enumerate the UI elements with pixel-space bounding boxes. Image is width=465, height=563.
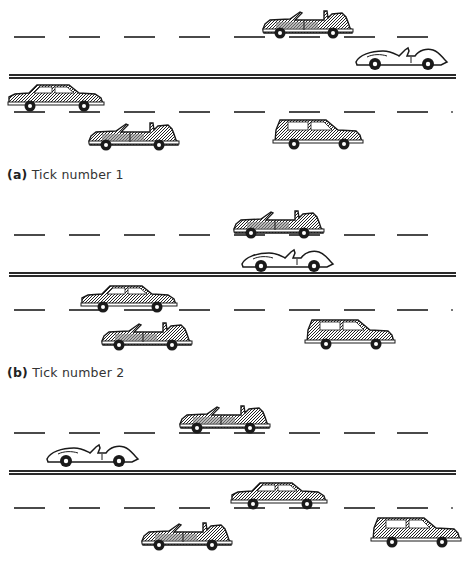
lane-dash [397,234,428,236]
lane-dash [124,234,155,236]
convertible-car-icon [141,520,233,552]
lane-dash [124,36,155,38]
lane-dash [397,507,428,509]
lane-dash [397,111,428,113]
lane-dash [397,432,428,434]
suv-car-icon [272,118,364,151]
roadster-car-icon [44,439,140,469]
lane-dash [14,234,45,236]
lane-dash [179,234,210,236]
roadster-car-icon [239,244,335,274]
sedan-car-icon [230,480,328,512]
convertible-car-icon [101,320,193,352]
lane-dash [344,432,375,434]
suv-car-icon [304,318,396,351]
lane-dash [14,309,45,311]
lane-dash [344,111,375,113]
convertible-car-icon [179,403,271,435]
panel-caption: (b) Tick number 2 [7,365,124,380]
lane-dash [14,507,45,509]
panel-label: (b) [7,365,28,380]
speck [451,111,453,113]
lane-dash [234,111,265,113]
suv-car-icon [370,516,462,549]
panel-1: (a) Tick number 1 [0,0,465,196]
lane-dash [124,111,155,113]
convertible-car-icon [233,208,325,240]
median-divider [9,272,456,277]
lane-dash [234,36,265,38]
lane-dash [397,309,428,311]
median-divider [9,74,456,79]
panel-label: (a) [7,167,27,182]
lane-dash [14,432,45,434]
lane-dash [14,36,45,38]
lane-dash [234,309,265,311]
lane-dash [69,507,100,509]
lane-dash [397,36,428,38]
convertible-car-icon [88,120,180,152]
lane-dash [179,309,210,311]
lane-dash [69,234,100,236]
convertible-car-icon [262,8,354,40]
lane-dash [289,111,320,113]
lane-dash [344,234,375,236]
panel-3 [0,396,465,563]
caption-text: Tick number 1 [32,167,124,182]
lane-dash [179,507,210,509]
lane-dash [344,507,375,509]
panel-2: (b) Tick number 2 [0,198,465,394]
median-divider [9,470,456,475]
caption-text: Tick number 2 [32,365,124,380]
lane-dash [124,432,155,434]
roadster-car-icon [353,42,449,72]
lane-dash [344,309,375,311]
lane-dash [179,111,210,113]
lane-dash [289,432,320,434]
lane-dash [179,36,210,38]
lane-dash [124,507,155,509]
sedan-car-icon [7,82,105,114]
lane-dash [289,309,320,311]
lane-dash [69,36,100,38]
lane-dash [69,432,100,434]
sedan-car-icon [80,283,178,315]
speck [451,507,453,509]
speck [451,309,453,311]
panel-caption: (a) Tick number 1 [7,167,124,182]
